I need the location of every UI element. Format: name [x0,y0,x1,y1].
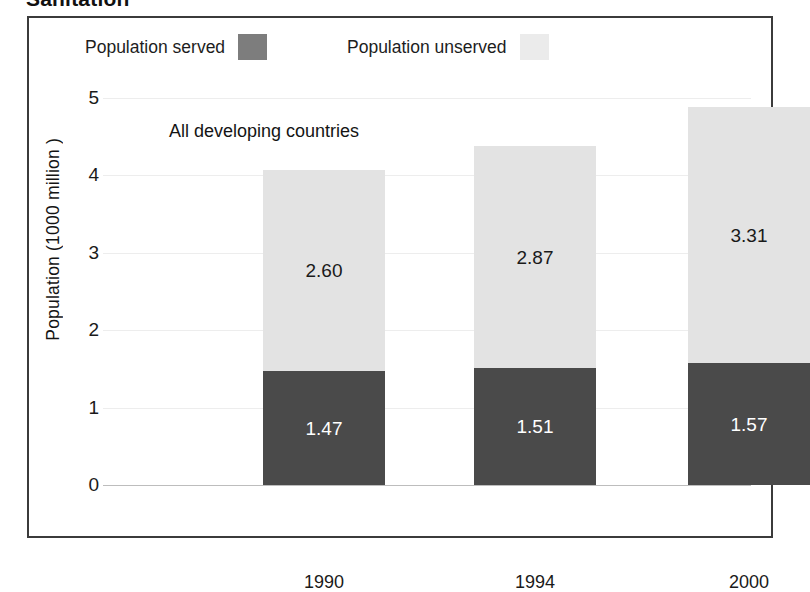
bar-group[interactable]: 1.573.31 [688,98,810,485]
bar-segment-population-unserved[interactable]: 3.31 [688,107,810,363]
legend-item-population-served[interactable]: Population served [85,34,267,60]
legend-item-population-unserved[interactable]: Population unserved [347,34,549,60]
bar-group[interactable]: 1.512.87 [474,98,596,485]
chart-frame: Population served Population unserved Po… [27,16,773,538]
bar-value-label: 2.60 [306,261,343,280]
bar-segment-population-unserved[interactable]: 2.60 [263,170,385,371]
gridline [103,98,751,99]
legend-label-population-unserved: Population unserved [347,37,507,58]
plot-area: 012345 1.472.601.512.871.573.31 19901994… [103,78,753,503]
y-axis-tick-label: 3 [59,242,99,264]
bar-segment-population-served[interactable]: 1.47 [263,371,385,485]
legend-label-population-served: Population served [85,37,225,58]
bar-value-label: 1.47 [306,419,343,438]
bar-segment-population-unserved[interactable]: 2.87 [474,146,596,368]
bar-segment-population-served[interactable]: 1.57 [688,363,810,485]
gridline [103,330,751,331]
bar-group[interactable]: 1.472.60 [263,98,385,485]
legend-swatch-population-served [238,34,267,60]
gridline [103,485,751,486]
bar-value-label: 3.31 [731,226,768,245]
y-axis-tick-label: 5 [59,87,99,109]
bar-segment-population-served[interactable]: 1.51 [474,368,596,485]
page-title: Sanitation [26,0,130,11]
bar-value-label: 2.87 [517,248,554,267]
chart-legend: Population served Population unserved [29,34,771,68]
gridline [103,175,751,176]
x-axis-tick-label: 1994 [515,572,555,592]
legend-swatch-population-unserved [520,34,549,60]
y-axis-tick-label: 2 [59,319,99,341]
bar-value-label: 1.57 [731,415,768,434]
x-axis-tick-label: 2000 [729,572,769,592]
gridline [103,408,751,409]
x-axis-tick-label: 1990 [304,572,344,592]
gridline [103,253,751,254]
bar-value-label: 1.51 [517,417,554,436]
y-axis-tick-label: 4 [59,164,99,186]
y-axis-tick-label: 1 [59,397,99,419]
plot-inner: 012345 1.472.601.512.871.573.31 [103,98,753,485]
y-axis-tick-label: 0 [59,474,99,496]
